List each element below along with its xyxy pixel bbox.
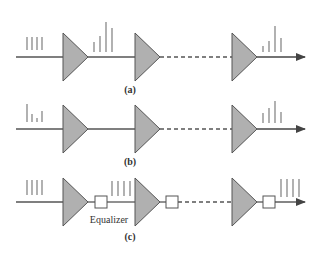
amplifier-icon bbox=[135, 105, 160, 153]
input-pulses bbox=[27, 104, 42, 122]
row-label: (b) bbox=[124, 156, 136, 168]
amplifier-icon bbox=[232, 33, 257, 81]
row-b: (b) bbox=[16, 101, 305, 168]
row-a: (a) bbox=[16, 22, 305, 96]
row-c: Equalizer (c) bbox=[16, 178, 305, 243]
row-label: (a) bbox=[124, 84, 136, 96]
amplifier-icon bbox=[232, 105, 257, 153]
input-pulses bbox=[27, 180, 42, 195]
amplifier-icon bbox=[63, 33, 88, 81]
row-label: (c) bbox=[124, 231, 135, 243]
equalizer-box bbox=[166, 196, 178, 208]
amplifier-equalizer-diagram: (a) (b) bbox=[0, 0, 318, 253]
amplifier-icon bbox=[135, 33, 160, 81]
output-pulses bbox=[263, 101, 281, 123]
equalizer-label: Equalizer bbox=[90, 214, 129, 225]
amplifier-icon bbox=[63, 178, 88, 226]
mid-pulses bbox=[112, 181, 130, 196]
mid-pulses bbox=[94, 22, 112, 52]
output-pulses bbox=[281, 179, 299, 197]
equalizer-box bbox=[95, 196, 107, 208]
input-pulses bbox=[27, 37, 42, 50]
amplifier-icon bbox=[232, 178, 257, 226]
output-pulses bbox=[263, 26, 281, 52]
equalizer-box bbox=[263, 196, 275, 208]
amplifier-icon bbox=[135, 178, 160, 226]
amplifier-icon bbox=[63, 105, 88, 153]
